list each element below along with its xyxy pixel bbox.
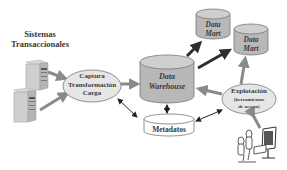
arrow-warehouse-to-datamart1 — [187, 44, 199, 56]
data-mart-2-label: Data Mart — [234, 35, 268, 53]
arrow-exploitation-to-users — [253, 115, 260, 128]
arrow-etl-metadata — [118, 99, 137, 117]
server-icon — [14, 88, 36, 122]
data-mart-1-label: Data Mart — [196, 20, 230, 38]
users-at-computer-icon — [238, 127, 276, 162]
arrow-exploitation-to-warehouse — [200, 89, 222, 94]
metadata-label: Metadatos — [144, 125, 194, 134]
etl-label: Captura Transformación Carga — [63, 72, 121, 98]
arrow-exploitation-to-datamart2 — [241, 60, 245, 84]
arrow-server1-to-etl — [48, 72, 64, 78]
arrow-warehouse-to-datamart2 — [198, 51, 228, 68]
exploitation-label: Explotación (herramientas de acceso) — [222, 87, 276, 110]
source-systems-label: Sistemas Transaccionales — [10, 29, 70, 49]
server-icon — [26, 60, 48, 90]
data-warehouse-label: Data Warehouse — [140, 72, 194, 92]
arrow-metadata-exploitation — [196, 110, 222, 121]
